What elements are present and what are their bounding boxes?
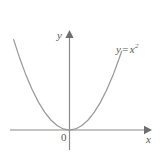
origin-label: 0 — [61, 132, 67, 143]
x-axis-label: x — [146, 134, 151, 145]
y-axis-arrowhead — [65, 30, 73, 38]
graph-canvas — [0, 0, 168, 161]
curve-label-exponent: 2 — [135, 42, 139, 50]
parabola-figure: y x 0 y=x2 — [0, 0, 168, 161]
parabola-curve — [14, 40, 122, 130]
curve-equation-label: y=x2 — [116, 43, 139, 55]
curve-label-equals: = — [121, 43, 130, 55]
y-axis-label: y — [57, 30, 62, 41]
